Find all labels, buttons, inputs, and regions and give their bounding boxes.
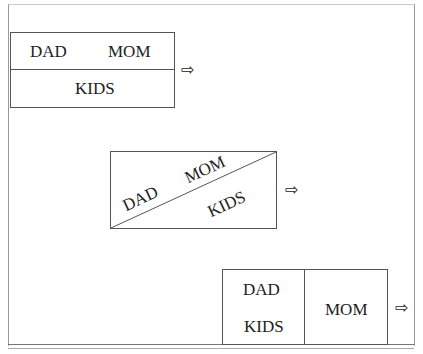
diagram-3-dad: DAD <box>243 280 280 300</box>
diagram-3-divider <box>304 270 305 344</box>
diagram-3-kids: KIDS <box>244 317 284 337</box>
arrow-right-icon: ⇨ <box>395 298 408 317</box>
arrow-right-icon: ⇨ <box>285 180 298 199</box>
diagram-3-mom: MOM <box>325 300 368 320</box>
